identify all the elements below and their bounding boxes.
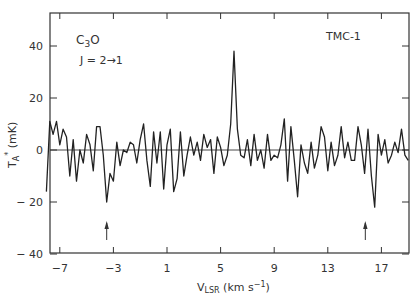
x-tick-label: −3 [105,262,121,275]
y-tick-label: 0 [36,144,43,157]
y-axis-label: TA* (mK) [4,122,21,169]
x-axis-label: VLSR (km s−1) [197,280,270,295]
x-tick-label: −7 [52,262,68,275]
molecule-label: C3O [76,33,100,49]
x-tick-label: 5 [217,262,224,275]
x-tick-label: 1 [164,262,171,275]
source-label: TMC-1 [325,30,361,43]
y-tick-label: 40 [29,40,43,53]
y-tick-label: − 20 [16,196,43,209]
line-marker-arrows [105,221,368,240]
y-tick-label: − 40 [16,248,43,261]
spectrum-chart: −7−31591317 − 40− 2002040 C3O J = 2→1 TM… [0,0,420,299]
transition-label: J = 2→1 [79,54,123,67]
spectrum-trace [46,51,408,207]
y-tick-label: 20 [29,92,43,105]
x-tick-label: 13 [321,262,335,275]
x-tick-label: 9 [271,262,278,275]
x-tick-label: 17 [374,262,388,275]
